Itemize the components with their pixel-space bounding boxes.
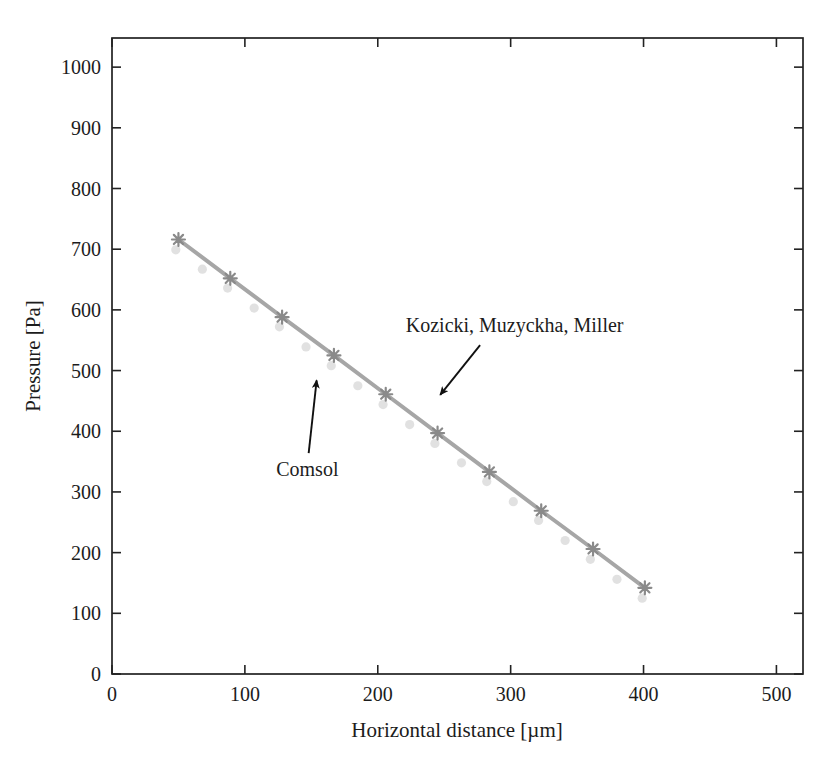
y-tick-label: 900 xyxy=(71,117,101,139)
comsol-marker xyxy=(353,381,362,390)
kozicki-marker xyxy=(327,349,340,362)
annotation-arrow xyxy=(440,345,480,395)
y-tick-label: 800 xyxy=(71,178,101,200)
y-tick-label: 200 xyxy=(71,542,101,564)
comsol-marker xyxy=(198,265,207,274)
comsol-marker xyxy=(561,536,570,545)
annotation-kozicki-label: Kozicki, Muzyckha, Miller xyxy=(406,314,624,337)
annotation-comsol-label: Comsol xyxy=(276,458,339,480)
comsol-marker xyxy=(509,497,518,506)
comsol-marker xyxy=(301,342,310,351)
kozicki-marker xyxy=(535,504,548,517)
y-axis-title: Pressure [Pa] xyxy=(21,300,45,411)
kozicki-marker xyxy=(172,233,185,246)
comsol-marker xyxy=(405,420,414,429)
y-tick-label: 500 xyxy=(71,360,101,382)
y-tick-label: 1000 xyxy=(61,56,101,78)
x-axis-title: Horizontal distance [µm] xyxy=(351,718,563,742)
y-tick-label: 600 xyxy=(71,299,101,321)
kozicki-marker xyxy=(224,272,237,285)
comsol-marker xyxy=(457,458,466,467)
x-tick-label: 500 xyxy=(761,683,791,705)
y-tick-label: 0 xyxy=(91,663,101,685)
kozicki-marker xyxy=(276,311,289,324)
axis-ticks xyxy=(112,38,803,674)
x-tick-label: 200 xyxy=(363,683,393,705)
annotation-arrow xyxy=(309,380,317,453)
kozicki-marker xyxy=(638,581,651,594)
kozicki-marker xyxy=(483,465,496,478)
y-tick-label: 700 xyxy=(71,238,101,260)
plot-area: 0100200300400500010020030040050060070080… xyxy=(61,38,803,705)
comsol-marker xyxy=(250,303,259,312)
x-tick-label: 300 xyxy=(496,683,526,705)
series-layer xyxy=(171,233,651,603)
series-comsol xyxy=(171,245,647,603)
series-kozicki xyxy=(172,233,651,594)
pressure-chart: 0100200300400500010020030040050060070080… xyxy=(0,0,835,771)
y-tick-label: 400 xyxy=(71,420,101,442)
x-tick-label: 100 xyxy=(230,683,260,705)
comsol-marker xyxy=(612,575,621,584)
figure: 0100200300400500010020030040050060070080… xyxy=(0,0,835,771)
kozicki-marker xyxy=(431,427,444,440)
y-tick-label: 100 xyxy=(71,602,101,624)
x-tick-label: 0 xyxy=(107,683,117,705)
axis-tick-labels: 0100200300400500010020030040050060070080… xyxy=(61,56,791,705)
kozicki-line xyxy=(178,239,644,587)
plot-border xyxy=(112,38,803,674)
x-tick-label: 400 xyxy=(629,683,659,705)
kozicki-marker xyxy=(379,388,392,401)
y-tick-label: 300 xyxy=(71,481,101,503)
kozicki-marker xyxy=(587,542,600,555)
